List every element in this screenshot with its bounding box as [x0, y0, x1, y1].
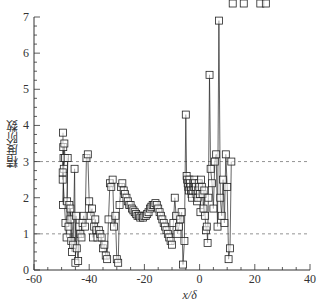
- y-tick-label: 2: [23, 191, 29, 205]
- data-marker: [262, 0, 269, 7]
- data-marker: [101, 241, 108, 248]
- data-marker: [112, 212, 119, 219]
- data-marker: [115, 259, 122, 266]
- data-marker: [67, 205, 74, 212]
- data-marker: [86, 198, 93, 205]
- data-marker: [78, 234, 85, 241]
- y-tick-label: 3: [23, 155, 29, 169]
- data-marker: [214, 223, 221, 230]
- y-tick-label: 1: [23, 227, 29, 241]
- data-marker: [80, 212, 87, 219]
- data-marker: [177, 216, 184, 223]
- data-marker: [224, 183, 231, 190]
- data-marker: [197, 176, 204, 183]
- y-tick-label: 0: [23, 263, 29, 277]
- data-marker: [228, 158, 235, 165]
- data-marker: [178, 209, 185, 216]
- data-marker: [202, 212, 209, 219]
- data-marker: [221, 220, 228, 227]
- data-marker: [207, 165, 214, 172]
- data-marker: [211, 158, 218, 165]
- y-axis-label: 精度阶数: [4, 120, 18, 168]
- data-marker: [104, 256, 111, 263]
- data-marker: [109, 176, 116, 183]
- data-marker: [218, 212, 225, 219]
- y-tick-label: 6: [23, 46, 29, 60]
- data-marker: [240, 0, 247, 7]
- data-marker: [205, 194, 212, 201]
- data-marker: [61, 140, 68, 147]
- data-marker: [105, 216, 112, 223]
- data-marker: [59, 169, 66, 176]
- chart-canvas: -60-40-200204001234567x/δ: [0, 0, 321, 303]
- data-marker: [201, 187, 208, 194]
- x-tick-label: 40: [304, 272, 316, 286]
- x-tick-label: -20: [136, 272, 152, 286]
- y-tick-label: 7: [23, 10, 29, 24]
- data-marker: [226, 245, 233, 252]
- data-marker: [200, 205, 207, 212]
- data-marker: [59, 129, 66, 136]
- data-marker: [73, 245, 80, 252]
- data-marker: [174, 230, 181, 237]
- data-marker: [82, 223, 89, 230]
- x-tick-label: 20: [249, 272, 261, 286]
- data-marker: [204, 239, 211, 246]
- data-marker: [59, 176, 66, 183]
- data-marker: [108, 183, 115, 190]
- data-marker: [175, 223, 182, 230]
- data-marker: [98, 234, 105, 241]
- data-marker: [71, 165, 78, 172]
- data-marker: [88, 205, 95, 212]
- data-marker: [171, 194, 178, 201]
- data-marker: [116, 201, 123, 208]
- data-marker: [222, 151, 229, 158]
- data-marker: [75, 257, 82, 264]
- data-marker: [72, 212, 79, 219]
- data-marker: [210, 205, 217, 212]
- y-tick-label: 4: [23, 118, 29, 132]
- data-marker: [229, 0, 236, 7]
- x-tick-label: 0: [197, 272, 203, 286]
- data-marker: [213, 151, 220, 158]
- data-marker: [119, 180, 126, 187]
- data-marker: [225, 256, 232, 263]
- data-marker: [203, 223, 210, 230]
- data-marker: [220, 176, 227, 183]
- data-marker: [217, 194, 224, 201]
- data-marker: [206, 71, 213, 78]
- x-tick-label: -40: [81, 272, 97, 286]
- data-marker: [64, 154, 71, 161]
- data-marker: [215, 17, 222, 24]
- data-marker: [181, 238, 188, 245]
- y-tick-label: 5: [23, 82, 29, 96]
- data-marker: [209, 180, 216, 187]
- data-marker: [182, 111, 189, 118]
- data-marker: [84, 151, 91, 158]
- data-marker: [65, 223, 72, 230]
- data-marker: [111, 223, 118, 230]
- chart-container: -60-40-200204001234567x/δ 精度阶数: [0, 0, 321, 303]
- data-marker: [169, 241, 176, 248]
- x-axis-label: x/δ: [181, 288, 197, 302]
- data-marker: [180, 261, 187, 268]
- data-marker: [92, 216, 99, 223]
